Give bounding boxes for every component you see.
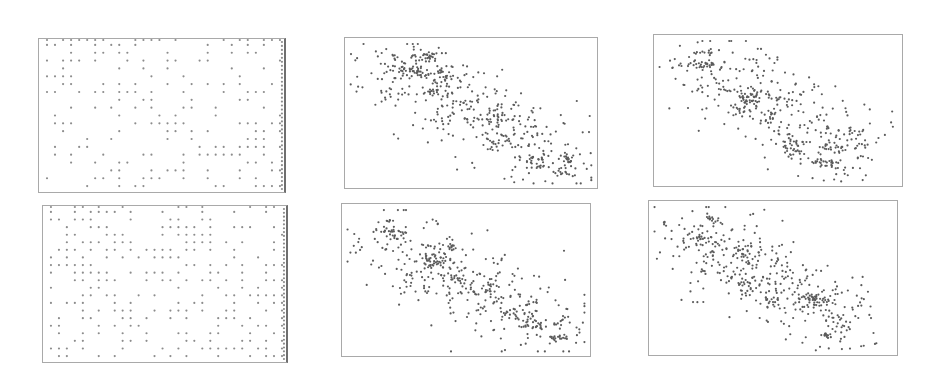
- scatter-panel-grid-bottom: [42, 205, 288, 363]
- scatter-points: [39, 39, 284, 192]
- scatter-points: [43, 206, 286, 362]
- scatter-panel-cluster-bottom-mid: [341, 203, 591, 357]
- scatter-points: [649, 201, 897, 355]
- scatter-panel-cluster-top-right: [653, 34, 903, 187]
- scatter-panel-cluster-top-mid: [344, 37, 598, 189]
- scatter-points: [345, 38, 597, 188]
- scatter-panel-grid-top: [38, 38, 286, 193]
- scatter-panel-cluster-bottom-right: [648, 200, 898, 356]
- scatter-points: [342, 204, 590, 356]
- scatter-points: [654, 35, 902, 186]
